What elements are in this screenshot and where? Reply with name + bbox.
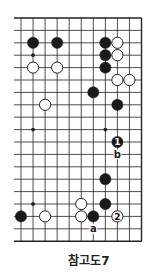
- black-stone: [15, 211, 26, 222]
- black-stone: [88, 211, 99, 222]
- black-stone: [100, 174, 111, 185]
- white-stone: [112, 74, 123, 85]
- white-stone: [124, 74, 135, 85]
- position-marker-b: b: [114, 149, 121, 160]
- white-stone: [112, 37, 123, 48]
- move-number-label: 2: [114, 212, 120, 222]
- star-point-icon: [31, 53, 35, 57]
- star-point-icon: [31, 128, 35, 132]
- white-stone: [76, 211, 87, 222]
- black-stone: [100, 62, 111, 73]
- position-marker-a: a: [90, 223, 97, 234]
- black-stone: [100, 198, 111, 209]
- black-stone: [27, 37, 38, 48]
- black-stone: [52, 37, 63, 48]
- white-stone: [112, 50, 123, 61]
- star-point-icon: [103, 128, 107, 132]
- black-stone: [88, 87, 99, 98]
- star-point-icon: [31, 202, 35, 206]
- white-stone: [52, 62, 63, 73]
- white-stone: [76, 198, 87, 209]
- white-stone: [27, 62, 38, 73]
- black-stone: [100, 50, 111, 61]
- white-stone: [40, 99, 51, 110]
- go-board-diagram: ba 12: [0, 0, 156, 250]
- move-number-label: 1: [114, 137, 120, 147]
- black-stone: [112, 99, 123, 110]
- white-stone: [40, 211, 51, 222]
- diagram-caption: 참고도7: [0, 251, 156, 268]
- black-stone: [100, 37, 111, 48]
